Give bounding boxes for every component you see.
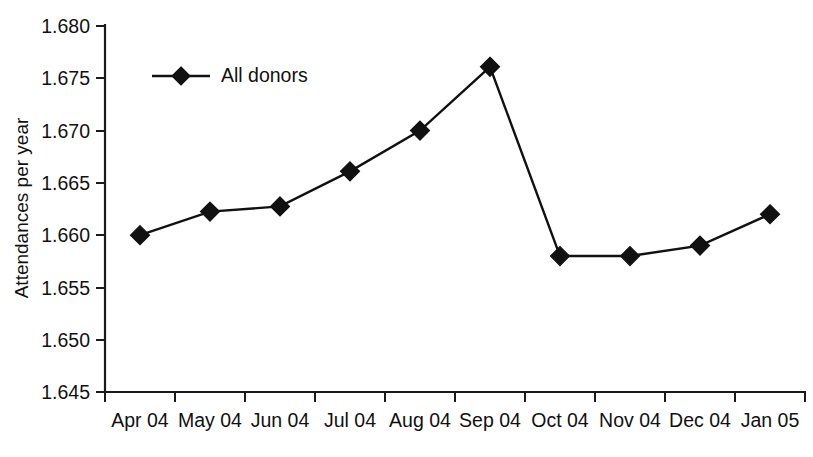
x-tick-label: Dec 04 (669, 409, 731, 431)
y-tick-label: 1.645 (41, 381, 90, 403)
y-tick-label: 1.660 (41, 224, 90, 246)
x-tick-label: Jun 04 (251, 409, 310, 431)
y-tick-label: 1.675 (41, 67, 90, 89)
legend-label-all-donors: All donors (221, 64, 308, 86)
y-tick-label: 1.655 (41, 277, 90, 299)
y-tick-label: 1.665 (41, 172, 90, 194)
x-tick-label: Sep 04 (459, 409, 521, 431)
line-chart: Attendances per year 1.680 1.675 1.670 1… (0, 0, 813, 457)
x-tick-label: Nov 04 (599, 409, 661, 431)
x-tick-label: Jul 04 (324, 409, 376, 431)
y-tick-label: 1.670 (41, 120, 90, 142)
x-tick-label: Aug 04 (389, 409, 451, 431)
y-tick-label: 1.650 (41, 329, 90, 351)
chart-background (0, 0, 813, 457)
y-axis-title: Attendances per year (11, 117, 32, 298)
chart-container: Attendances per year 1.680 1.675 1.670 1… (0, 0, 813, 457)
y-tick-label: 1.680 (41, 15, 90, 37)
x-tick-label: Oct 04 (531, 409, 589, 431)
x-tick-label: May 04 (178, 409, 242, 431)
x-tick-label: Apr 04 (111, 409, 169, 431)
x-tick-label: Jan 05 (741, 409, 800, 431)
